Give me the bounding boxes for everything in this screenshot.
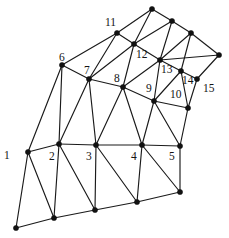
mesh-edge — [16, 218, 54, 228]
mesh-edge — [191, 33, 219, 55]
mesh-node-4 — [139, 142, 144, 147]
mesh-node-boundary — [134, 199, 139, 204]
node-label-10: 10 — [170, 89, 182, 101]
mesh-edge — [54, 210, 95, 218]
mesh-node-8 — [120, 84, 125, 89]
mesh-edge — [89, 79, 96, 145]
mesh-node-boundary — [169, 18, 174, 23]
mesh-node-boundary — [13, 225, 18, 230]
mesh-edge — [154, 101, 188, 108]
mesh-node-boundary — [188, 30, 193, 35]
mesh-node-1 — [25, 149, 30, 154]
mesh-node-9 — [151, 98, 156, 103]
mesh-edge — [16, 152, 28, 228]
node-label-8: 8 — [114, 73, 120, 85]
mesh-node-boundary — [51, 215, 56, 220]
mesh-node-14 — [178, 68, 183, 73]
node-label-9: 9 — [146, 83, 152, 95]
node-label-2: 2 — [49, 151, 55, 163]
mesh-node-13 — [157, 57, 162, 62]
mesh-node-7 — [86, 76, 91, 81]
mesh-edge — [180, 108, 188, 146]
mesh-edge — [117, 33, 134, 44]
mesh-edge — [62, 33, 117, 65]
mesh-node-11 — [114, 30, 119, 35]
mesh-edge — [154, 101, 180, 146]
mesh-edge — [59, 65, 62, 144]
node-label-12: 12 — [136, 49, 148, 61]
mesh-edge — [117, 9, 152, 33]
mesh-node-15 — [194, 76, 199, 81]
node-label-13: 13 — [161, 64, 173, 76]
mesh-node-boundary — [149, 6, 154, 11]
mesh-node-2 — [56, 141, 61, 146]
node-label-15: 15 — [203, 83, 215, 95]
node-label-1: 1 — [4, 150, 10, 162]
mesh-edge — [28, 65, 62, 152]
mesh-edge — [89, 44, 134, 79]
mesh-node-boundary — [177, 189, 182, 194]
edge-layer — [16, 9, 219, 228]
mesh-edge — [142, 145, 180, 146]
mesh-edge — [181, 33, 191, 71]
mesh-figure: 123456789101112131415 — [0, 0, 229, 238]
mesh-canvas — [0, 0, 229, 238]
mesh-node-boundary — [216, 52, 221, 57]
mesh-edge — [59, 144, 96, 145]
mesh-edge — [172, 21, 191, 33]
mesh-node-5 — [177, 143, 182, 148]
node-label-7: 7 — [84, 65, 90, 77]
node-label-14: 14 — [182, 75, 194, 87]
mesh-edge — [89, 33, 117, 79]
node-label-3: 3 — [86, 151, 92, 163]
mesh-edge — [96, 87, 123, 145]
mesh-node-boundary — [92, 207, 97, 212]
mesh-edge — [142, 101, 154, 145]
mesh-node-10 — [185, 105, 190, 110]
mesh-edge — [59, 79, 89, 144]
mesh-edge — [160, 55, 219, 60]
mesh-edge — [137, 192, 180, 202]
mesh-edge — [123, 87, 142, 145]
mesh-edge — [95, 145, 96, 210]
mesh-node-12 — [131, 41, 136, 46]
mesh-node-3 — [93, 142, 98, 147]
mesh-edge — [152, 9, 172, 21]
node-label-11: 11 — [105, 17, 116, 29]
mesh-edge — [137, 145, 142, 202]
mesh-edge — [197, 55, 219, 79]
node-label-5: 5 — [169, 151, 175, 163]
node-label-6: 6 — [59, 52, 65, 64]
node-label-4: 4 — [131, 151, 137, 163]
mesh-edge — [95, 202, 137, 210]
node-layer — [13, 6, 221, 230]
